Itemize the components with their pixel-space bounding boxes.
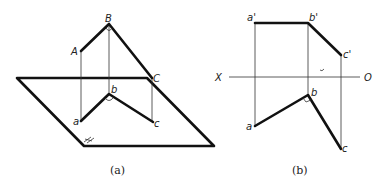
space-angle-abc <box>81 24 152 78</box>
front-view-abc <box>255 23 341 55</box>
plane-h-mark <box>84 137 94 143</box>
label-b-prime: b' <box>309 12 318 23</box>
label-A: A <box>70 46 78 57</box>
label-b: b <box>111 84 117 95</box>
top-view-abc <box>255 95 341 149</box>
figure-b: X O a' b' c' b a c (b) <box>214 12 372 177</box>
label-a: a <box>73 116 79 127</box>
label-C: C <box>153 73 160 84</box>
label-c-top: c <box>342 143 348 154</box>
stray-mark <box>320 69 324 71</box>
projection-angle-abc <box>81 94 153 122</box>
orthographic-projection-diagram: B A C b a c (a) X O a' b' c' b a c (b) <box>0 0 383 186</box>
figure-a: B A C b a c (a) <box>17 13 214 177</box>
axis-label-x: X <box>214 72 223 83</box>
label-c: c <box>154 118 160 129</box>
label-b-top: b <box>311 87 317 98</box>
caption-a: (a) <box>110 164 125 177</box>
label-B: B <box>105 13 112 24</box>
caption-b: (b) <box>292 164 308 177</box>
axis-label-o: O <box>364 72 372 83</box>
label-a-top: a <box>246 121 252 132</box>
label-c-prime: c' <box>343 49 351 60</box>
label-a-prime: a' <box>247 12 256 23</box>
